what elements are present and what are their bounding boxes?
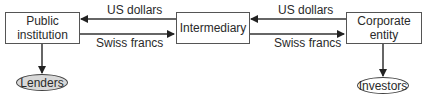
node-public-institution: Public institution [5, 12, 80, 44]
node-lenders: Lenders [16, 74, 68, 91]
node-label-line1: Corporate [357, 14, 410, 28]
node-label: Intermediary [180, 21, 247, 35]
edge-label-chf-left: Swiss francs [96, 37, 163, 50]
edge-label-chf-right: Swiss francs [274, 37, 341, 50]
edge-label-usd-left: US dollars [107, 4, 162, 17]
node-label: Lenders [20, 76, 63, 90]
edge-label-usd-right: US dollars [278, 4, 333, 17]
node-label: Investors [359, 79, 408, 93]
node-label-line2: institution [17, 28, 68, 42]
node-investors: Investors [357, 77, 409, 94]
node-corporate-entity: Corporate entity [346, 12, 422, 44]
node-intermediary: Intermediary [176, 12, 250, 44]
node-label-line2: entity [357, 28, 410, 42]
node-label-line1: Public [17, 14, 68, 28]
